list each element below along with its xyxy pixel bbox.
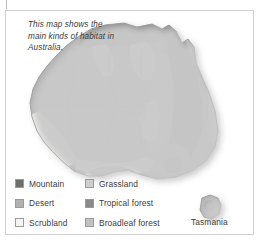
legend-item-broadleaf-forest: Broadleaf forest xyxy=(85,218,187,228)
legend-item-mountain: Mountain xyxy=(15,179,85,189)
legend-swatch-tropical-forest xyxy=(85,199,94,208)
legend-item-grassland: Grassland xyxy=(85,179,187,189)
legend-swatch-grassland xyxy=(85,179,94,188)
legend-swatch-scrubland xyxy=(15,218,24,227)
legend-label-scrubland: Scrubland xyxy=(29,218,68,228)
legend-swatch-desert xyxy=(15,199,24,208)
legend-label-tropical-forest: Tropical forest xyxy=(99,198,153,208)
figure-frame: This map shows the main kinds of habitat… xyxy=(5,10,254,235)
legend-swatch-mountain xyxy=(15,179,24,188)
legend-swatch-broadleaf-forest xyxy=(85,218,94,227)
tasmania-group xyxy=(200,195,221,219)
map-legend: Mountain Grassland Desert Tropical fores… xyxy=(15,174,187,233)
legend-item-desert: Desert xyxy=(15,198,85,208)
legend-item-scrubland: Scrubland xyxy=(15,218,85,228)
crop-tick-mark xyxy=(6,0,7,9)
legend-label-mountain: Mountain xyxy=(29,179,64,189)
legend-label-grassland: Grassland xyxy=(99,179,138,189)
tasmania-label: Tasmania xyxy=(191,217,228,227)
legend-item-tropical-forest: Tropical forest xyxy=(85,198,187,208)
map-caption: This map shows the main kinds of habitat… xyxy=(28,19,120,54)
legend-label-broadleaf-forest: Broadleaf forest xyxy=(99,218,160,228)
legend-label-desert: Desert xyxy=(29,198,54,208)
